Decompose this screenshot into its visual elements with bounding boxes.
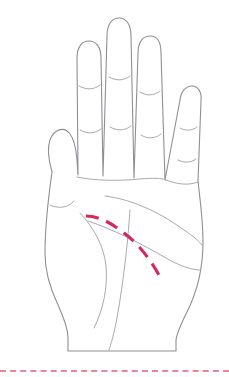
- footer-divider: [0, 370, 229, 372]
- palm-diagram-figure: [0, 0, 229, 377]
- palm-illustration: [0, 0, 229, 377]
- hand-outline: [45, 18, 203, 351]
